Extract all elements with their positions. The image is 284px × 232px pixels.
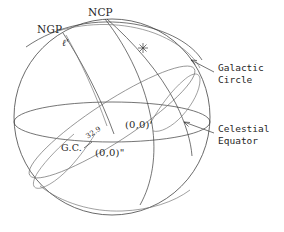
equatorial-meridian-arc xyxy=(105,19,154,205)
label-ngp: NGP xyxy=(37,24,62,35)
galactic-meridian-arc xyxy=(63,33,114,134)
celestial-sphere-diagram: NCP NGP ℓ' G.C. (0,0)' (0,0)" 32.9 Galac… xyxy=(0,0,284,232)
callout-celestial-equator: Celestial Equator xyxy=(218,123,269,146)
sphere-outline xyxy=(14,19,210,215)
label-origin-prime: (0,0)' xyxy=(125,120,153,131)
node-tick-icon xyxy=(84,142,92,148)
galactic-longitude-arc xyxy=(66,35,107,126)
label-origin-double-prime: (0,0)" xyxy=(95,148,125,159)
galactic-circle-leader xyxy=(191,60,214,72)
label-ell-prime: ℓ' xyxy=(62,38,69,48)
lower-sphere-arc xyxy=(40,186,190,211)
star-marker-icon xyxy=(138,43,148,53)
label-ncp: NCP xyxy=(88,7,113,18)
callout-galactic-circle: Galactic Circle xyxy=(218,62,264,85)
label-galactic-center: G.C. xyxy=(61,143,82,153)
ngp-small-circle-arc xyxy=(58,24,200,68)
galactic-circle-ellipse xyxy=(19,52,205,192)
celestial-equator-ellipse xyxy=(14,102,210,142)
